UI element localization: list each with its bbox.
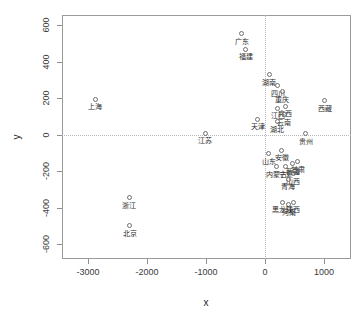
x-axis-tick: [265, 259, 266, 264]
data-point-label: 天津: [251, 123, 265, 130]
data-point-label: 福建: [239, 53, 253, 60]
y-axis-tick-label: 0: [41, 132, 50, 137]
y-axis-tick-label: 600: [41, 18, 50, 33]
y-axis-tick-label: -200: [41, 162, 50, 180]
y-axis-tick: [57, 62, 62, 63]
data-point-label: 江苏: [198, 137, 212, 144]
y-axis-tick: [57, 208, 62, 209]
x-axis-tick: [88, 259, 89, 264]
data-point-marker: [127, 195, 132, 200]
data-point-label: 重庆: [275, 96, 289, 103]
data-point-label: 西藏: [318, 105, 332, 112]
data-point-marker: [279, 148, 284, 153]
data-point-marker: [280, 200, 285, 205]
data-point-marker: [286, 177, 291, 182]
x-axis-tick-label: -2000: [136, 268, 159, 277]
reference-line-vertical: [265, 15, 266, 259]
data-point-label: 湖北: [270, 126, 284, 133]
scatter-plot-figure: -3000-2000-1000010006004002000-200-400-6…: [0, 0, 361, 315]
y-axis-title: y: [11, 134, 22, 139]
data-point-marker: [243, 47, 248, 52]
x-axis-tick-label: -1000: [194, 268, 217, 277]
y-axis-tick: [57, 135, 62, 136]
y-axis-tick: [57, 171, 62, 172]
data-point-marker: [291, 200, 296, 205]
y-axis-tick: [57, 25, 62, 26]
data-point-label: 青海: [281, 183, 295, 190]
x-axis-tick: [324, 259, 325, 264]
data-point-marker: [93, 97, 98, 102]
data-point-label: 浙江: [122, 202, 136, 209]
data-point-label: 湖南: [262, 79, 276, 86]
data-point-label: 上海: [88, 103, 102, 110]
data-point-label: 山东: [262, 158, 276, 165]
x-axis-tick: [147, 259, 148, 264]
y-axis-tick-label: -400: [41, 198, 50, 216]
x-axis-title: x: [204, 297, 209, 308]
data-point-label: 北京: [123, 230, 137, 237]
data-point-label: 安徽: [275, 154, 289, 161]
y-axis-tick-label: 200: [41, 91, 50, 106]
data-point-marker: [203, 131, 208, 136]
x-axis-tick-label: -3000: [77, 268, 100, 277]
data-point-label: 陕西: [286, 206, 300, 213]
data-point-label: 贵州: [299, 138, 313, 145]
y-axis-tick: [57, 244, 62, 245]
data-point-label: 广东: [235, 38, 249, 45]
x-axis-tick: [206, 259, 207, 264]
y-axis-tick: [57, 98, 62, 99]
y-axis-tick-label: -600: [41, 235, 50, 253]
x-axis-tick-label: 1000: [314, 268, 334, 277]
x-axis-tick-label: 0: [262, 268, 267, 277]
y-axis-tick-label: 400: [41, 54, 50, 69]
data-point-marker: [283, 104, 288, 109]
data-point-marker: [267, 72, 272, 77]
